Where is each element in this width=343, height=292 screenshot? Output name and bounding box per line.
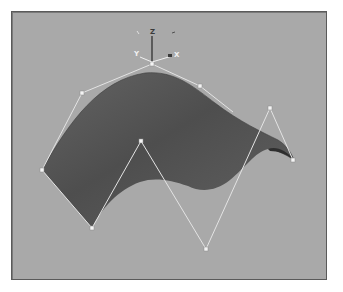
control-point[interactable] — [204, 247, 208, 251]
gizmo-rotate-arc-left — [137, 31, 139, 34]
control-point[interactable] — [198, 84, 202, 88]
x-axis-label: X — [174, 51, 180, 59]
control-point[interactable] — [291, 158, 295, 162]
x-axis-handle[interactable] — [168, 54, 172, 57]
control-point[interactable] — [40, 168, 44, 172]
surface-body — [42, 73, 294, 228]
control-point[interactable] — [80, 91, 84, 95]
scene-canvas[interactable]: Z Y X — [0, 0, 343, 292]
control-point[interactable] — [139, 139, 143, 143]
transform-gizmo[interactable]: Z Y X — [133, 28, 180, 62]
nurbs-surface[interactable] — [42, 73, 294, 228]
control-point[interactable] — [150, 62, 154, 66]
gizmo-rotate-arc-right — [172, 32, 175, 33]
z-axis-label: Z — [150, 28, 155, 36]
y-axis-label: Y — [133, 50, 140, 58]
y-axis-line — [140, 57, 152, 62]
control-point[interactable] — [268, 106, 272, 110]
control-point[interactable] — [90, 226, 94, 230]
